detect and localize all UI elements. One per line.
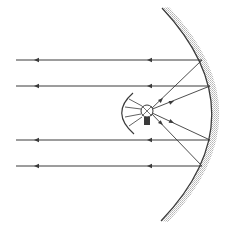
concave-mirror <box>161 8 212 221</box>
diverging-rays <box>150 60 210 166</box>
parallel-rays <box>16 60 210 166</box>
aux-reflector <box>122 93 142 134</box>
diverging-ray-arrowheads <box>158 97 175 127</box>
light-bulb-icon <box>141 105 153 125</box>
concave-mirror-diagram <box>0 0 235 237</box>
mirror-shading <box>161 7 219 222</box>
ray-arrowheads <box>34 58 152 168</box>
